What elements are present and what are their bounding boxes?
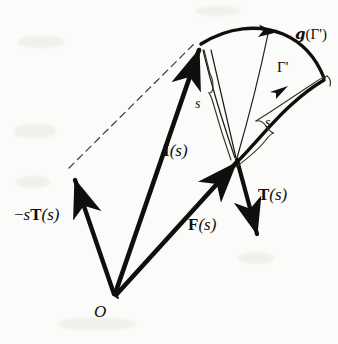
vector-T-arg: (s) bbox=[42, 205, 60, 224]
vector-I-symbol: I bbox=[163, 141, 170, 160]
figure-canvas: g(Γ') Γ' s s I(s) T(s) F(s) −sT(s) O bbox=[0, 0, 338, 344]
vector-T-arrow bbox=[237, 160, 257, 234]
label-vector-T: T(s) bbox=[258, 186, 287, 203]
brace-s-left-tail bbox=[204, 50, 210, 74]
label-vector-I: I(s) bbox=[163, 142, 188, 159]
label-g-of-gamma: g(Γ') bbox=[295, 27, 327, 42]
script-g-glyph: g bbox=[295, 25, 306, 43]
label-origin: O bbox=[94, 303, 106, 320]
vector-neg-sT-arrow bbox=[75, 180, 114, 294]
vector-F-arrow bbox=[116, 163, 236, 295]
vector-T-symbol: T bbox=[258, 185, 269, 204]
vector-F-symbol: F bbox=[188, 215, 198, 234]
label-gamma-prime: Γ' bbox=[277, 60, 288, 75]
paren-close: ) bbox=[322, 26, 327, 42]
brace-s-right-cap bbox=[327, 76, 330, 86]
label-arclength-s-right: s bbox=[265, 116, 270, 130]
diagram-drawing bbox=[0, 0, 338, 344]
vector-T-symbol: T bbox=[30, 205, 41, 224]
minus-sign: − bbox=[14, 205, 24, 224]
label-vector-F: F(s) bbox=[188, 216, 216, 233]
gamma-glyph: Γ bbox=[311, 26, 320, 42]
label-arclength-s-left: s bbox=[195, 97, 200, 111]
inner-curve-arrowhead-icon bbox=[270, 86, 288, 99]
prime-glyph: ' bbox=[286, 59, 289, 75]
vector-T-arg: (s) bbox=[269, 185, 287, 204]
vector-I-arg: (s) bbox=[170, 141, 188, 160]
label-vector-neg-sT: −sT(s) bbox=[14, 206, 60, 223]
vector-I-arrow bbox=[115, 50, 199, 294]
vector-F-arg: (s) bbox=[198, 215, 216, 234]
gamma-glyph: Γ bbox=[277, 59, 286, 75]
